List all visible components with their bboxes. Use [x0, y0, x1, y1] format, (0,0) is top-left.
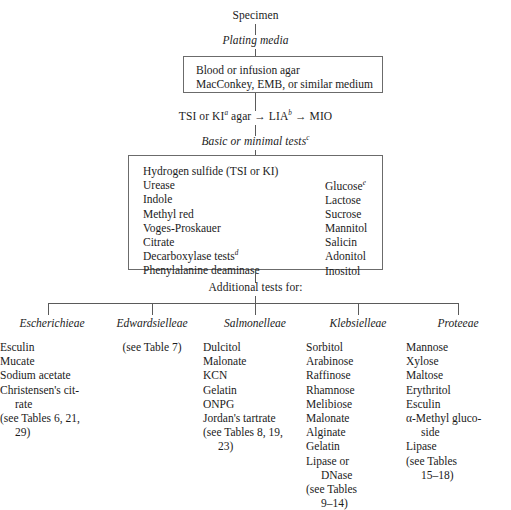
column-item: 23): [203, 439, 307, 453]
column-item: KCN: [203, 368, 307, 382]
test-right-item-label: Adonitol: [325, 250, 366, 262]
column-item: Gelatin: [306, 439, 410, 453]
plating-media-label: Plating media: [0, 34, 511, 47]
column-item: Melibiose: [306, 397, 410, 411]
column-item: Malonate: [203, 354, 307, 368]
column-item: Mannose: [406, 340, 510, 354]
test-left-item: Indole: [143, 192, 278, 206]
column-item: Sodium acetate: [0, 368, 104, 382]
column-header-klebsielleae: Klebsielleae: [306, 317, 410, 330]
column-item: DNase: [306, 468, 410, 482]
column-body-salmonelleae: DulcitolMalonateKCNGelatinONPGJordan's t…: [203, 340, 307, 454]
column-item: (see Tables: [306, 482, 410, 496]
branch-bus-horizontal: [48, 303, 459, 304]
test-right-item: Adonitol: [325, 249, 367, 263]
column-item: α-Methyl gluco-: [406, 411, 510, 425]
tests-box-left-column: Hydrogen sulfide (TSI or KI)UreaseIndole…: [143, 164, 278, 278]
test-right-item-superscript: e: [363, 179, 366, 187]
column-item: Gelatin: [203, 383, 307, 397]
column-item: Dulcitol: [203, 340, 307, 354]
branch-tick-edwardsielleae: [152, 303, 153, 315]
branch-tick-escherichieae: [48, 303, 49, 315]
tests-box-right-column: GlucoseeLactoseSucroseMannitolSalicinAdo…: [325, 179, 367, 278]
column-item: Arabinose: [306, 354, 410, 368]
basic-tests-superscript: c: [306, 134, 309, 142]
column-salmonelleae: SalmonelleaeDulcitolMalonateKCNGelatinON…: [203, 317, 307, 454]
agar-sequence-end: → MIO: [292, 110, 332, 122]
test-right-item-label: Lactose: [325, 194, 361, 206]
column-escherichieae: EscherichieaeEsculinMucateSodium acetate…: [0, 317, 104, 439]
column-item: Xylose: [406, 354, 510, 368]
column-item: Lipase or: [306, 454, 410, 468]
column-body-klebsielleae: SorbitolArabinoseRaffinoseRhamnoseMelibi…: [306, 340, 410, 510]
agar-sequence-label: TSI or KIa agar → LIAb → MIO: [0, 110, 511, 123]
agar-sequence-start: TSI or KI: [179, 110, 225, 122]
media-box: Blood or infusion agar MacConkey, EMB, o…: [183, 56, 383, 93]
test-right-item-label: Mannitol: [325, 222, 367, 234]
basic-tests-box: Hydrogen sulfide (TSI or KI)UreaseIndole…: [128, 155, 383, 270]
column-item: (see Tables 6, 21,: [0, 411, 104, 425]
basic-tests-label: Basic or minimal testsc: [0, 135, 511, 148]
column-item: 15–18): [406, 468, 510, 482]
additional-tests-label: Additional tests for:: [0, 281, 511, 294]
media-box-text: Blood or infusion agar MacConkey, EMB, o…: [184, 57, 382, 91]
column-item: Sorbitol: [306, 340, 410, 354]
column-body-proteeae: MannoseXyloseMaltoseErythritolEsculinα-M…: [406, 340, 510, 482]
column-item: 29): [0, 425, 104, 439]
test-left-item-superscript: d: [235, 249, 239, 257]
column-body-edwardsielleae: (see Table 7): [100, 340, 204, 354]
test-left-item: Urease: [143, 178, 278, 192]
column-header-salmonelleae: Salmonelleae: [203, 317, 307, 330]
column-item: Alginate: [306, 425, 410, 439]
test-left-item: Voges-Proskauer: [143, 221, 278, 235]
test-right-item-label: Sucrose: [325, 208, 361, 220]
test-right-item-label: Inositol: [325, 265, 360, 277]
branch-tick-klebsielleae: [358, 303, 359, 315]
column-item: Christensen's cit-: [0, 383, 104, 397]
test-right-item: Salicin: [325, 235, 367, 249]
column-item: Malonate: [306, 411, 410, 425]
column-body-escherichieae: EsculinMucateSodium acetateChristensen's…: [0, 340, 104, 439]
basic-tests-text: Basic or minimal tests: [201, 135, 306, 147]
test-right-item: Sucrose: [325, 207, 367, 221]
column-item: Esculin: [406, 397, 510, 411]
column-item: Erythritol: [406, 383, 510, 397]
column-item: (see Table 7): [100, 340, 204, 354]
test-right-item: Lactose: [325, 193, 367, 207]
test-left-item-label: Methyl red: [143, 208, 194, 220]
column-item: Lipase: [406, 439, 510, 453]
test-left-item-label: Citrate: [143, 236, 174, 248]
column-item: Mucate: [0, 354, 104, 368]
test-right-item: Glucosee: [325, 179, 367, 193]
test-right-item-label: Salicin: [325, 236, 357, 248]
test-right-item: Mannitol: [325, 221, 367, 235]
column-klebsielleae: KlebsielleaeSorbitolArabinoseRaffinoseRh…: [306, 317, 410, 510]
test-right-item-label: Glucose: [325, 180, 363, 192]
column-item: Maltose: [406, 368, 510, 382]
column-item: ONPG: [203, 397, 307, 411]
test-left-item: Decarboxylase testsd: [143, 249, 278, 263]
column-item: Jordan's tartrate: [203, 411, 307, 425]
column-header-escherichieae: Escherichieae: [0, 317, 104, 330]
column-item: side: [406, 425, 510, 439]
column-proteeae: ProteeaeMannoseXyloseMaltoseErythritolEs…: [406, 317, 510, 482]
test-right-item: Inositol: [325, 264, 367, 278]
column-item: Esculin: [0, 340, 104, 354]
test-left-item: Phenylalanine deaminase: [143, 263, 278, 277]
column-item: (see Tables: [406, 454, 510, 468]
column-item: Rhamnose: [306, 383, 410, 397]
test-left-item-label: Hydrogen sulfide (TSI or KI): [143, 165, 278, 177]
connector-media-box-to-agar: [255, 93, 256, 111]
media-box-line-1: Blood or infusion agar: [196, 63, 382, 77]
test-left-item-label: Voges-Proskauer: [143, 222, 221, 234]
column-item: 9–14): [306, 496, 410, 510]
column-item: rate: [0, 397, 104, 411]
media-box-line-2: MacConkey, EMB, or similar medium: [196, 77, 382, 91]
test-left-item-label: Phenylalanine deaminase: [143, 264, 260, 276]
test-left-item-label: Urease: [143, 179, 175, 191]
test-left-item: Citrate: [143, 235, 278, 249]
column-item: (see Tables 8, 19,: [203, 425, 307, 439]
specimen-label: Specimen: [0, 9, 511, 22]
agar-sequence-middle: agar → LIA: [228, 110, 288, 122]
